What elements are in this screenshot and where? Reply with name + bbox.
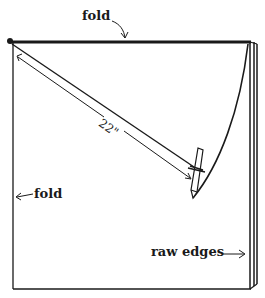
cutting-curve	[193, 44, 248, 198]
corner-pivot	[7, 38, 13, 44]
radius-line	[12, 44, 194, 167]
left-fold-label: fold	[34, 186, 62, 201]
fabric-diagram	[0, 0, 265, 298]
raw-edges-label: raw edges	[151, 244, 224, 259]
raw-edges-layers	[250, 42, 257, 289]
top-fold-label: fold	[82, 8, 110, 23]
pencil-icon	[188, 148, 205, 198]
